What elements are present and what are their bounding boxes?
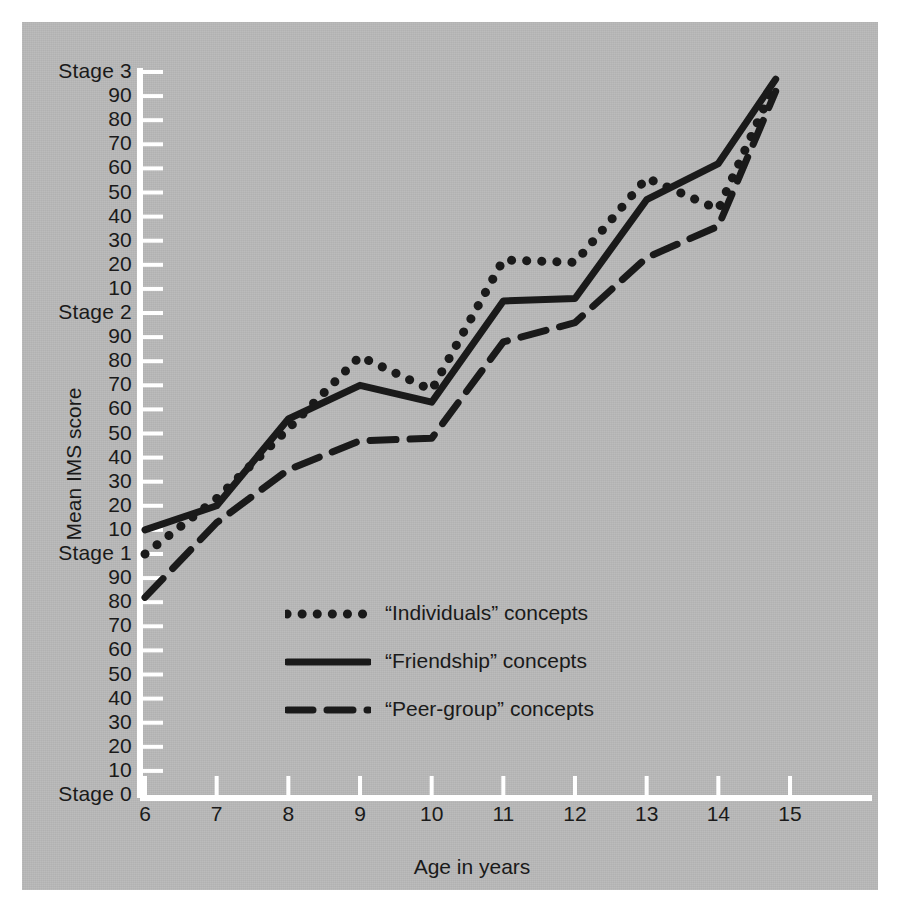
legend-label: “Peer-group” concepts — [385, 697, 594, 721]
legend-label: “Individuals” concepts — [385, 601, 588, 625]
y-tick-label: 80 — [22, 589, 132, 613]
x-tick-label: 8 — [258, 802, 318, 826]
x-axis-ticks — [145, 776, 790, 798]
y-tick-label: 50 — [22, 662, 132, 686]
legend-item: “Individuals” concepts — [285, 600, 588, 626]
axes — [140, 68, 872, 798]
figure-panel: Stage 0102030405060708090Stage 110203040… — [22, 22, 878, 890]
y-tick-label: 60 — [22, 155, 132, 179]
legend-swatch-dashed — [285, 705, 371, 713]
y-tick-label: 10 — [22, 758, 132, 782]
y-tick-label: 80 — [22, 107, 132, 131]
x-tick-label: 13 — [617, 802, 677, 826]
y-tick-label: 20 — [22, 252, 132, 276]
x-tick-label: 11 — [473, 802, 533, 826]
y-tick-label-stage: Stage 3 — [22, 59, 132, 83]
y-tick-label: 70 — [22, 613, 132, 637]
y-tick-label: 50 — [22, 180, 132, 204]
y-tick-label: 70 — [22, 131, 132, 155]
y-tick-label: 90 — [22, 324, 132, 348]
y-axis-ticks — [140, 72, 163, 771]
legend-label: “Friendship” concepts — [385, 649, 587, 673]
y-tick-label: 20 — [22, 734, 132, 758]
x-tick-label: 10 — [402, 802, 462, 826]
x-tick-label: 7 — [187, 802, 247, 826]
y-tick-label: 10 — [22, 276, 132, 300]
x-tick-label: 9 — [330, 802, 390, 826]
data-series-group — [145, 79, 776, 597]
y-axis-title: Mean IMS score — [62, 354, 86, 574]
series-line-solid — [145, 79, 776, 530]
x-tick-label: 12 — [545, 802, 605, 826]
legend-item: “Friendship” concepts — [285, 648, 587, 674]
x-tick-label: 6 — [115, 802, 175, 826]
chart-canvas — [22, 22, 878, 890]
x-axis-title: Age in years — [352, 855, 592, 879]
y-tick-label: 60 — [22, 637, 132, 661]
legend-swatch-solid — [285, 657, 371, 665]
legend-item: “Peer-group” concepts — [285, 696, 594, 722]
y-tick-label: 30 — [22, 710, 132, 734]
y-tick-label: 90 — [22, 83, 132, 107]
x-tick-label: 14 — [688, 802, 748, 826]
y-tick-label-stage: Stage 2 — [22, 300, 132, 324]
y-tick-label: 40 — [22, 204, 132, 228]
x-tick-label: 15 — [760, 802, 820, 826]
legend-swatch-dotted — [285, 609, 371, 617]
y-tick-label: 30 — [22, 228, 132, 252]
y-tick-label: 40 — [22, 686, 132, 710]
